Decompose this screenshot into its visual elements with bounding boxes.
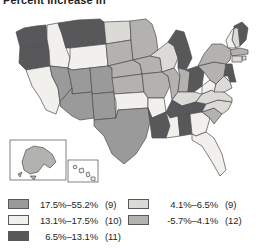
legend-item[interactable]: 13.1%–17.5% (10) — [8, 212, 122, 228]
legend-range-label: 6.5%–13.1% — [36, 231, 98, 242]
legend-swatch — [128, 215, 149, 225]
alaska-inset — [10, 140, 66, 180]
hawaii-inset — [68, 160, 98, 182]
legend-item[interactable]: 6.5%–13.1% (11) — [8, 228, 122, 244]
state-MO[interactable] — [142, 72, 170, 98]
legend-column-left: 17.5%–55.2% (9) 13.1%–17.5% (10) 6.5%–13… — [8, 196, 122, 244]
state-FL[interactable] — [192, 132, 226, 176]
state-HI[interactable] — [73, 165, 95, 181]
us-map-svg — [0, 14, 268, 196]
legend-swatch — [8, 199, 29, 209]
state-CT[interactable] — [232, 56, 242, 62]
state-RI[interactable] — [242, 56, 246, 60]
state-CO[interactable] — [90, 66, 114, 94]
state-MT[interactable] — [58, 19, 106, 48]
legend-item[interactable]: 17.5%–55.2% (9) — [8, 196, 122, 212]
state-AL[interactable] — [178, 114, 192, 136]
legend-swatch — [8, 231, 29, 241]
state-NM[interactable] — [92, 92, 116, 120]
legend-range-label: 13.1%–17.5% — [36, 215, 98, 226]
map-states — [16, 19, 248, 176]
legend-item[interactable]: 4.1%–6.5% (9) — [128, 196, 242, 212]
legend-count-label: (9) — [225, 199, 236, 210]
state-AK[interactable] — [18, 146, 56, 180]
map-legend: 17.5%–55.2% (9) 13.1%–17.5% (10) 6.5%–13… — [0, 196, 268, 248]
legend-swatch — [128, 199, 149, 209]
state-WY[interactable] — [68, 44, 108, 70]
legend-range-label: 4.1%–6.5% — [156, 199, 218, 210]
legend-item[interactable]: -5.7%–4.1% (12) — [128, 212, 242, 228]
legend-range-label: -5.7%–4.1% — [156, 215, 218, 226]
legend-range-label: 17.5%–55.2% — [36, 199, 98, 210]
legend-count-label: (9) — [105, 199, 116, 210]
page-title: Percent Increase in — [3, 0, 106, 6]
legend-count-label: (12) — [225, 215, 242, 226]
choropleth-map — [0, 14, 268, 196]
legend-swatch — [8, 215, 29, 225]
legend-column-right: 4.1%–6.5% (9) -5.7%–4.1% (12) — [128, 196, 242, 228]
state-MA[interactable] — [230, 48, 248, 56]
legend-count-label: (11) — [105, 231, 121, 242]
legend-count-label: (10) — [105, 215, 122, 226]
state-WA[interactable] — [16, 25, 47, 48]
